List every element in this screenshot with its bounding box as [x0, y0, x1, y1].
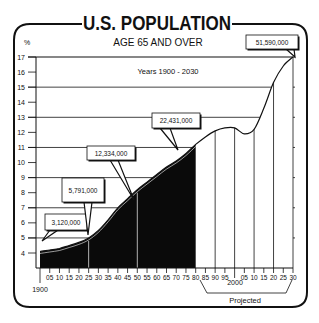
- x-tick-label: 75: [182, 274, 190, 281]
- x-tick-label: 25: [85, 274, 93, 281]
- x-tick-label: 15: [66, 274, 74, 281]
- y-axis-label: %: [24, 39, 30, 46]
- callout-1900: 3,120,000: [42, 214, 89, 241]
- y-tick-label: 11: [18, 144, 25, 151]
- chart-title: U.S. POPULATION: [83, 11, 231, 34]
- x-tick-label: 25: [280, 274, 288, 281]
- callout-pointer: [42, 230, 58, 241]
- data-area: [40, 57, 293, 268]
- callout-label: 3,120,000: [52, 219, 81, 226]
- x-tick-label: 10: [250, 274, 258, 281]
- y-tick-label: 7: [21, 204, 25, 211]
- x-tick-label: 15: [260, 274, 268, 281]
- x-tick-label: 45: [124, 274, 132, 281]
- y-axis: 4567891011121314151617: [17, 54, 36, 269]
- callout-label: 22,431,000: [160, 117, 193, 124]
- y-tick-label: 15: [17, 84, 25, 91]
- y-tick-label: 14: [17, 99, 25, 106]
- callout-label: 12,334,000: [95, 150, 128, 157]
- x-mid-label: 2000: [227, 279, 243, 286]
- x-tick-label: 65: [163, 274, 171, 281]
- y-tick-label: 4: [21, 250, 25, 257]
- callout-label: 51,590,000: [256, 39, 289, 46]
- callout-label: 5,791,000: [69, 187, 98, 194]
- y-tick-label: 9: [21, 174, 25, 181]
- y-tick-label: 8: [21, 189, 25, 196]
- projected-bracket: [200, 280, 292, 293]
- callout-2030: 51,590,000: [246, 35, 300, 57]
- x-tick-label: 90: [212, 274, 220, 281]
- y-tick-label: 17: [17, 54, 25, 61]
- y-tick-label: 10: [17, 159, 25, 166]
- x-tick-label: 10: [56, 274, 64, 281]
- chart-subtitle: AGE 65 AND OVER: [113, 37, 202, 48]
- x-tick-label: 80: [192, 274, 200, 281]
- y-tick-label: 13: [17, 114, 25, 121]
- x-tick-label: 50: [134, 274, 142, 281]
- x-tick-label: 40: [114, 274, 122, 281]
- x-tick-label: 85: [202, 274, 210, 281]
- y-tick-label: 12: [17, 129, 25, 136]
- x-tick-label: 60: [153, 274, 161, 281]
- x-tick-label: 05: [46, 274, 54, 281]
- x-tick-label: 20: [75, 274, 83, 281]
- x-start-label: 1900: [32, 286, 48, 293]
- projected-label: Projected: [229, 296, 261, 305]
- x-tick-label: 35: [104, 274, 112, 281]
- x-tick-label: 30: [289, 274, 297, 281]
- callout-pointer: [110, 160, 134, 200]
- callout-1975: 22,431,000: [152, 113, 202, 150]
- y-tick-label: 5: [21, 234, 25, 241]
- x-tick-label: 55: [143, 274, 151, 281]
- x-axis: 0510152025303540455055606570758085909505…: [36, 268, 297, 283]
- x-tick-label: 20: [270, 274, 278, 281]
- callout-pointer: [160, 128, 178, 150]
- x-tick-label: 70: [173, 274, 181, 281]
- y-tick-label: 16: [17, 69, 25, 76]
- years-range-annotation: Years 1900 - 2030: [137, 67, 198, 76]
- y-tick-label: 6: [21, 219, 25, 226]
- population-chart: U.S. POPULATION AGE 65 AND OVER % Years …: [0, 0, 319, 323]
- x-tick-label: 30: [95, 274, 103, 281]
